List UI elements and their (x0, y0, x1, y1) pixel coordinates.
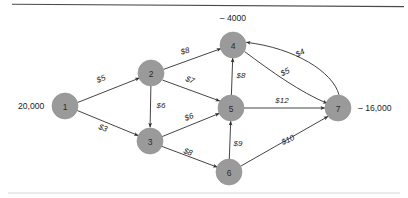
edge-2-3 (150, 86, 151, 127)
supply-label-node-7: – 16,000 (358, 103, 392, 113)
cost-label-edge-1-3: $3 (96, 122, 109, 134)
node-label-5: 5 (229, 104, 234, 114)
cost-label-edge-7-4: $4 (293, 47, 306, 60)
cost-label-group: $5 $3 $8 $7 $6 $6 $8 $8 $9 $12 $10 $5 $4 (94, 45, 306, 158)
node-label-4: 4 (231, 41, 236, 51)
node-label-7: 7 (336, 104, 341, 114)
network-diagram-canvas: 1 2 3 4 5 6 7 20,000 – 4000 – 16,000 $5 … (0, 0, 408, 198)
node-label-1: 1 (63, 102, 68, 112)
node-group: 1 2 3 4 5 6 7 (52, 32, 351, 185)
cost-label-edge-6-5: $9 (233, 139, 243, 148)
edge-1-2 (78, 78, 140, 103)
top-rule (12, 4, 404, 6)
cost-label-edge-2-5: $7 (183, 74, 196, 86)
supply-label-node-4: – 4000 (220, 13, 247, 23)
cost-label-edge-2-3: $6 (156, 101, 166, 110)
supply-label-node-1: 20,000 (18, 101, 45, 111)
cost-label-edge-3-5: $6 (182, 111, 195, 123)
node-label-3: 3 (148, 137, 153, 147)
cost-label-edge-2-4: $8 (179, 45, 192, 57)
edge-6-5 (229, 121, 230, 159)
edge-2-4 (164, 49, 222, 70)
node-label-2: 2 (149, 69, 154, 79)
node-label-6: 6 (227, 168, 232, 178)
cost-label-edge-5-7: $12 (274, 96, 289, 105)
edge-1-3 (77, 111, 138, 136)
edge-group (77, 42, 339, 167)
cost-label-edge-3-6: $8 (181, 146, 194, 158)
cost-label-edge-1-2: $5 (94, 73, 107, 85)
cost-label-edge-6-7: $10 (279, 133, 296, 147)
edge-5-4 (231, 58, 232, 95)
network-flow-figure: 1 2 3 4 5 6 7 20,000 – 4000 – 16,000 $5 … (0, 0, 408, 198)
cost-label-edge-5-4: $8 (236, 71, 246, 80)
edge-7-4 (246, 42, 339, 95)
